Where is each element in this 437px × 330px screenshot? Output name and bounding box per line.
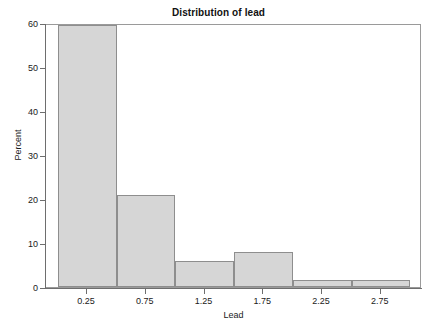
- x-tick-mark: [380, 289, 381, 294]
- histogram-bar: [293, 280, 352, 287]
- plot-area: [45, 24, 421, 288]
- chart-title: Distribution of lead: [0, 7, 437, 18]
- x-tick-label: 2.25: [301, 296, 341, 306]
- y-tick-mark: [40, 244, 45, 245]
- y-tick-label: 10: [0, 239, 38, 249]
- y-tick-label: 20: [0, 195, 38, 205]
- y-tick-mark: [40, 156, 45, 157]
- histogram-bar: [175, 261, 234, 287]
- x-tick-mark: [262, 289, 263, 294]
- y-tick-mark: [40, 200, 45, 201]
- y-tick-label: 60: [0, 19, 38, 29]
- x-axis-line: [45, 288, 422, 289]
- histogram-bar: [352, 280, 411, 287]
- x-tick-mark: [204, 289, 205, 294]
- x-tick-mark: [145, 289, 146, 294]
- x-tick-label: 1.75: [242, 296, 282, 306]
- y-tick-mark: [40, 288, 45, 289]
- x-tick-label: 0.25: [66, 296, 106, 306]
- y-tick-label: 50: [0, 63, 38, 73]
- y-axis-line: [45, 24, 46, 289]
- y-tick-label: 0: [0, 283, 38, 293]
- x-axis-title: Lead: [45, 310, 422, 320]
- x-tick-label: 0.75: [125, 296, 165, 306]
- x-tick-mark: [86, 289, 87, 294]
- x-tick-label: 1.25: [184, 296, 224, 306]
- y-tick-mark: [40, 24, 45, 25]
- histogram-figure: Distribution of lead 0102030405060 0.250…: [0, 0, 437, 330]
- histogram-bar: [58, 25, 117, 287]
- x-tick-mark: [321, 289, 322, 294]
- y-axis-title: Percent: [13, 115, 23, 175]
- y-tick-mark: [40, 68, 45, 69]
- x-tick-label: 2.75: [360, 296, 400, 306]
- histogram-bar: [234, 252, 293, 287]
- y-tick-mark: [40, 112, 45, 113]
- histogram-bar: [117, 195, 176, 287]
